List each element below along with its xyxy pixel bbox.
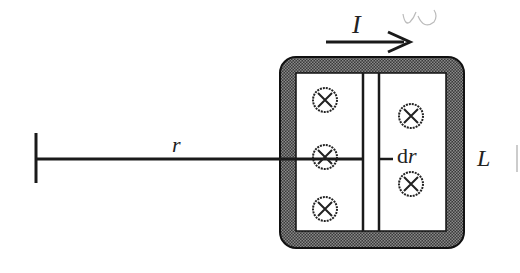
thickness-label: dr: [397, 143, 417, 169]
toroid-diagram: [0, 0, 520, 273]
thickness-label-d: d: [397, 143, 408, 168]
radius-label: r: [172, 132, 181, 158]
thickness-label-r: r: [408, 143, 417, 168]
conductor-frame: [280, 57, 464, 248]
length-label: L: [477, 145, 490, 172]
current-arrow-icon: [326, 32, 410, 52]
current-label: I: [352, 10, 361, 40]
scribble-mark: [403, 10, 436, 25]
